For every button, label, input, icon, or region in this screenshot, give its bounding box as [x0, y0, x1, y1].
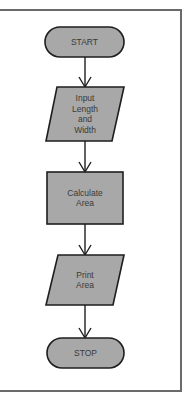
stop-label: STOP — [74, 348, 97, 359]
arrow-start-to-input — [79, 57, 91, 87]
start-node: START — [45, 27, 124, 57]
calc-node: Calculate Area — [47, 172, 123, 224]
print-label-line-1: Print — [76, 270, 93, 281]
print-node: Print Area — [50, 255, 120, 305]
start-label: START — [71, 37, 98, 48]
arrow-print-to-stop — [79, 305, 91, 338]
input-label-line-4: Width — [74, 125, 96, 136]
stop-node: STOP — [47, 338, 124, 368]
calc-label-line-2: Area — [76, 198, 94, 209]
input-label-line-2: Length — [72, 104, 98, 115]
input-label-line-1: Input — [76, 93, 95, 104]
print-label-line-2: Area — [76, 280, 94, 291]
input-label-line-3: and — [78, 114, 92, 125]
arrow-input-to-calc — [79, 141, 91, 172]
input-node: Input Length and Width — [50, 89, 120, 139]
arrow-calc-to-print — [79, 224, 91, 255]
calc-label-line-1: Calculate — [67, 188, 102, 199]
